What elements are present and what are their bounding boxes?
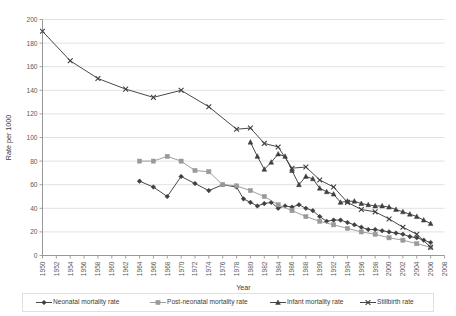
x-axis-ticks: 1950195219541956195819601962196419661968… (39, 256, 448, 277)
y-tick-label: 140 (26, 87, 37, 94)
x-tick-label: 1990 (316, 261, 323, 276)
legend-label: Stillbirth rate (377, 298, 414, 305)
data-point-marker (206, 104, 211, 109)
y-tick-label: 180 (26, 40, 37, 47)
chart-legend: Neonatal mortality ratePost-neonatal mor… (23, 294, 434, 312)
legend-label: Neonatal mortality rate (53, 298, 120, 306)
y-tick-label: 80 (30, 158, 38, 165)
x-tick-label: 1986 (288, 261, 295, 276)
data-point-marker (262, 194, 266, 198)
data-point-marker (137, 159, 141, 163)
data-point-marker (366, 227, 371, 232)
y-tick-label: 0 (34, 252, 38, 259)
x-tick-label: 1968 (164, 261, 171, 276)
data-point-marker (96, 76, 101, 81)
data-point-marker (331, 218, 336, 223)
data-point-marker (387, 230, 392, 235)
data-point-marker (137, 179, 142, 184)
data-point-marker (338, 218, 343, 223)
x-tick-label: 2008 (441, 261, 448, 276)
data-point-marker (408, 234, 413, 239)
data-point-marker (207, 188, 212, 193)
x-tick-label: 1984 (275, 261, 282, 276)
x-tick-label: 1988 (302, 261, 309, 276)
data-point-marker (394, 231, 399, 236)
x-tick-label: 1974 (205, 261, 212, 276)
y-tick-label: 20 (30, 228, 38, 235)
data-point-marker (123, 87, 128, 92)
line-chart: 020406080100120140160180200 195019521954… (0, 0, 456, 316)
data-point-marker (248, 200, 253, 205)
series-4 (40, 29, 433, 250)
data-point-marker (151, 159, 155, 163)
data-point-marker (276, 151, 281, 156)
data-point-marker (262, 201, 267, 206)
y-tick-label: 60 (30, 181, 38, 188)
x-tick-label: 2004 (413, 261, 420, 276)
x-tick-label: 1996 (358, 261, 365, 276)
data-point-marker (297, 202, 302, 207)
x-tick-label: 1962 (122, 261, 129, 276)
legend-label: Post-neonatal mortality rate (167, 298, 248, 306)
y-axis-ticks: 020406080100120140160180200 (26, 16, 42, 259)
x-tick-label: 1976 (219, 261, 226, 276)
y-tick-label: 40 (30, 205, 38, 212)
x-tick-label: 1998 (372, 261, 379, 276)
data-point-marker (380, 228, 385, 233)
data-point-marker (332, 223, 336, 227)
data-point-marker (304, 206, 309, 211)
data-point-marker (345, 226, 349, 230)
y-tick-label: 200 (26, 16, 37, 23)
data-point-marker (359, 230, 363, 234)
chart-container: 020406080100120140160180200 195019521954… (0, 0, 456, 316)
data-point-marker (165, 154, 169, 158)
data-point-marker (359, 225, 364, 230)
data-point-marker (248, 189, 252, 193)
x-tick-label: 1954 (67, 261, 74, 276)
data-point-marker (415, 242, 419, 246)
data-point-marker (156, 300, 160, 304)
x-tick-label: 1960 (108, 261, 115, 276)
x-tick-label: 1978 (233, 261, 240, 276)
data-point-marker (68, 58, 73, 63)
data-point-marker (401, 232, 406, 237)
data-point-marker (401, 225, 406, 230)
x-tick-label: 1982 (261, 261, 268, 276)
data-point-marker (428, 240, 433, 245)
x-tick-label: 1952 (53, 261, 60, 276)
x-tick-label: 1964 (136, 261, 143, 276)
y-tick-label: 160 (26, 63, 37, 70)
y-tick-label: 120 (26, 110, 37, 117)
data-point-marker (401, 238, 405, 242)
data-point-marker (221, 183, 225, 187)
data-point-marker (241, 197, 246, 202)
data-point-marker (193, 181, 198, 186)
data-point-marker (255, 154, 260, 159)
x-tick-label: 1992 (330, 261, 337, 276)
data-point-marker (387, 236, 391, 240)
legend-label: Infant mortality rate (287, 298, 344, 306)
x-tick-label: 1966 (150, 261, 157, 276)
x-axis-title: Year (236, 283, 251, 292)
data-point-marker (304, 214, 308, 218)
data-point-marker (317, 178, 322, 183)
data-point-marker (255, 204, 260, 209)
x-tick-label: 1972 (191, 261, 198, 276)
series-line (43, 31, 431, 247)
data-point-marker (207, 170, 211, 174)
x-tick-label: 1958 (94, 261, 101, 276)
x-tick-label: 1994 (344, 261, 351, 276)
data-point-marker (345, 220, 350, 225)
data-point-marker (276, 203, 280, 207)
y-tick-label: 100 (26, 134, 37, 141)
series-line (140, 176, 431, 242)
x-tick-label: 1970 (178, 261, 185, 276)
series-2 (137, 154, 432, 249)
x-tick-label: 1980 (247, 261, 254, 276)
data-point-marker (248, 140, 253, 145)
x-tick-label: 1950 (39, 261, 46, 276)
data-point-marker (373, 232, 377, 236)
x-tick-label: 2000 (385, 261, 392, 276)
data-point-marker (331, 185, 336, 190)
data-point-marker (387, 217, 392, 222)
